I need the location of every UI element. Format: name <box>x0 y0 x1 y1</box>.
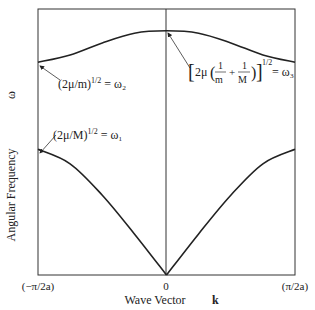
annotation-omega3: [ 2μ ( 1 m + 1 M ) ] 1/2 = ω₃ <box>188 58 294 85</box>
x-tick-label: (−π/2a) <box>22 280 55 293</box>
arrow-omega3 <box>168 33 190 68</box>
x-tick-label: 0 <box>163 280 169 292</box>
svg-text:1: 1 <box>242 60 247 71</box>
annotation-omega1: (2μ/M)1/2 = ω₁ <box>53 127 123 142</box>
y-axis-symbol: ω <box>4 91 18 99</box>
svg-text:2μ: 2μ <box>195 65 207 79</box>
arrow-omega2 <box>40 66 60 80</box>
dispersion-chart: (2μ/m)1/2 = ω₂ (2μ/M)1/2 = ω₁ [ 2μ ( 1 m… <box>0 0 315 310</box>
annotation-omega2: (2μ/m)1/2 = ω₂ <box>58 76 126 91</box>
svg-text:1: 1 <box>218 60 223 71</box>
svg-text:m: m <box>215 74 223 85</box>
svg-text:= ω₃: = ω₃ <box>272 65 294 79</box>
x-axis-label: Wave Vector <box>124 293 185 307</box>
x-axis-symbol: k <box>212 293 219 307</box>
svg-text:[: [ <box>188 60 195 82</box>
svg-text:+: + <box>229 66 235 78</box>
svg-text:1/2: 1/2 <box>262 58 272 67</box>
x-tick-label: (π/2a) <box>282 280 309 293</box>
y-axis-label: Angular Frequency <box>4 149 18 242</box>
svg-text:M: M <box>238 74 247 85</box>
